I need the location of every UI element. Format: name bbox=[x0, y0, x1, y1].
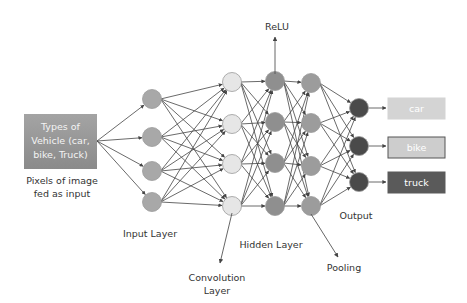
edge-input-box-to-node-2 bbox=[97, 141, 143, 166]
edge-l3n1-to-l4n2 bbox=[320, 123, 354, 174]
hidden1-node-0 bbox=[266, 72, 285, 91]
pooling-label: Pooling bbox=[327, 262, 361, 273]
output-node-1 bbox=[350, 137, 369, 156]
edge-input-box-to-node-0 bbox=[97, 105, 144, 141]
edge-l0n3-to-l1n1 bbox=[161, 131, 226, 202]
input-box-line-1: Types of bbox=[40, 121, 81, 132]
hidden1-node-3 bbox=[266, 197, 285, 216]
output-node-2 bbox=[350, 173, 369, 192]
output-box-bike: bike bbox=[388, 137, 445, 158]
edge-l0n1-to-l1n2 bbox=[161, 137, 223, 160]
output-label: Output bbox=[340, 210, 373, 221]
hidden1-node-1 bbox=[266, 113, 285, 132]
convolution-node-3 bbox=[223, 197, 242, 216]
edge-l3n1-to-l4n1 bbox=[320, 123, 351, 141]
edge-l0n2-to-l1n0 bbox=[161, 90, 226, 171]
edge-l3n0-to-l4n1 bbox=[320, 83, 354, 138]
edge-l0n2-to-l1n1 bbox=[161, 129, 224, 171]
input-caption-line-1: Pixels of image bbox=[26, 175, 98, 186]
hidden-layer-label: Hidden Layer bbox=[239, 239, 302, 250]
edge-l2n2-to-l3n2 bbox=[284, 163, 302, 165]
edge-l1n3-to-l2n2 bbox=[241, 171, 269, 206]
edge-l1n0-to-l2n0 bbox=[241, 81, 265, 82]
edge-l3n3-to-l4n2 bbox=[320, 187, 351, 206]
hidden1-node-2 bbox=[266, 154, 285, 173]
hidden2-node-2 bbox=[302, 157, 321, 176]
edge-l1n3-to-l2n1 bbox=[241, 131, 272, 206]
edge-input-box-to-node-1 bbox=[97, 138, 142, 141]
edge-input-box-to-node-3 bbox=[97, 141, 145, 195]
output-node-0 bbox=[350, 99, 369, 118]
input-image-box: Types of Vehicle (car, bike, Truck) bbox=[24, 114, 97, 169]
input-box-line-2: Vehicle (car, bbox=[31, 135, 90, 146]
input-box-line-3: bike, Truck) bbox=[33, 149, 87, 160]
output-label-truck: truck bbox=[404, 177, 429, 188]
input-caption-line-2: fed as input bbox=[34, 188, 91, 199]
edge-l3n2-to-l4n0 bbox=[320, 116, 354, 166]
edge-l0n0-to-l1n3 bbox=[161, 99, 227, 198]
edge-l2n1-to-l3n1 bbox=[284, 122, 301, 123]
convolution-layer-label-1: Convolution bbox=[189, 272, 246, 283]
input-node-0 bbox=[143, 90, 162, 109]
input-layer-label: Input Layer bbox=[123, 228, 177, 239]
pooling-arrow bbox=[311, 214, 338, 257]
relu-label: ReLU bbox=[265, 21, 289, 32]
output-label-bike: bike bbox=[407, 142, 427, 153]
edge-l0n0-to-l1n1 bbox=[161, 99, 223, 121]
output-box-car: car bbox=[388, 98, 445, 119]
edge-l1n1-to-l2n2 bbox=[241, 124, 269, 156]
convolution-layer-label-2: Layer bbox=[204, 285, 231, 296]
edge-l3n0-to-l4n0 bbox=[320, 83, 351, 103]
edge-l0n3-to-l1n3 bbox=[161, 202, 222, 205]
connections bbox=[97, 81, 386, 206]
edge-l2n0-to-l3n3 bbox=[284, 81, 309, 196]
edge-l3n3-to-l4n1 bbox=[320, 154, 354, 206]
edge-l3n2-to-l4n1 bbox=[320, 151, 351, 166]
edge-l1n1-to-l2n1 bbox=[241, 123, 265, 124]
output-box-truck: truck bbox=[388, 172, 445, 193]
convolution-node-1 bbox=[223, 115, 242, 134]
output-label-car: car bbox=[409, 103, 424, 114]
cnn-diagram: Types of Vehicle (car, bike, Truck) Pixe… bbox=[0, 0, 467, 303]
edge-l1n2-to-l2n2 bbox=[241, 163, 265, 164]
hidden2-node-0 bbox=[302, 74, 321, 93]
hidden2-node-3 bbox=[302, 197, 321, 216]
input-node-1 bbox=[143, 128, 162, 147]
input-node-3 bbox=[143, 193, 162, 212]
convolution-node-2 bbox=[223, 155, 242, 174]
convolution-node-0 bbox=[223, 73, 242, 92]
input-node-2 bbox=[143, 162, 162, 181]
convolution-arrow bbox=[220, 213, 232, 263]
edge-l2n0-to-l3n0 bbox=[284, 81, 301, 82]
hidden2-node-1 bbox=[302, 114, 321, 133]
